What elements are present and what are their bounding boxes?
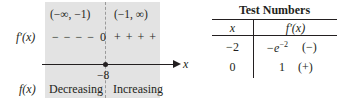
table-top-rule: [212, 19, 337, 20]
axis-variable-label: x: [183, 57, 188, 72]
critical-point-label: −8: [97, 69, 109, 81]
header-derivative: f′(x): [254, 21, 337, 36]
table-header-rule: [212, 35, 337, 36]
behavior-left: Decreasing: [49, 82, 103, 97]
critical-point-divider: [105, 2, 106, 98]
number-line: [42, 64, 174, 65]
behavior-right: Increasing: [113, 82, 163, 97]
interval-left-label: (−∞, −1): [50, 8, 90, 20]
critical-value: 0: [100, 30, 106, 45]
arrow-right-icon: [173, 60, 181, 68]
row2-value: 1: [279, 60, 285, 75]
function-row-label: f(x): [19, 82, 36, 97]
row1-sign: (−): [302, 40, 317, 55]
row2-x: 0: [212, 60, 253, 75]
positive-signs: + + + +: [114, 30, 157, 45]
negative-signs: − − − −: [52, 30, 95, 45]
row1-x: −2: [212, 40, 253, 55]
row1-value: −e−2: [266, 40, 288, 56]
header-x: x: [212, 21, 253, 36]
critical-point-dot: [103, 62, 108, 67]
table-column-divider: [253, 19, 254, 78]
row2-sign: (+): [298, 60, 313, 75]
derivative-row-label: f′(x): [16, 30, 35, 45]
table-title: Test Numbers: [212, 3, 337, 18]
interval-right-label: (−1, ∞): [114, 8, 148, 20]
